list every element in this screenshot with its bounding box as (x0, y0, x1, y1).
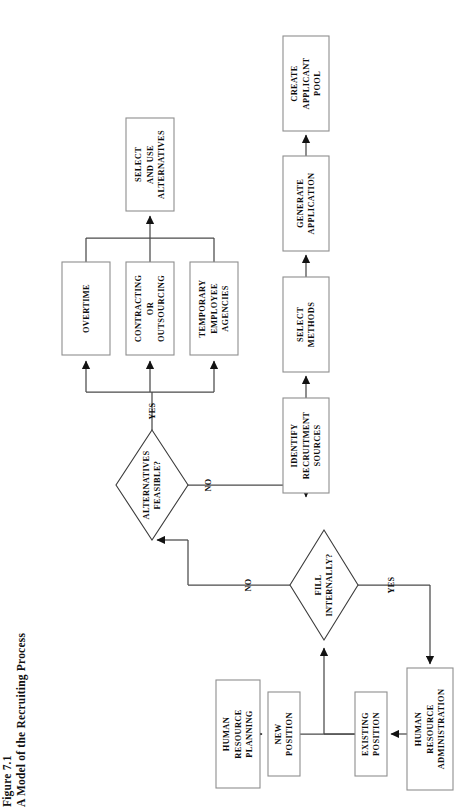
node-label-select-methods-line-1: SELECT (296, 307, 305, 342)
node-label-alternatives-feasible-line-2: FEASIBLE? (153, 461, 162, 510)
node-label-select-methods-line-2: METHODS (307, 302, 316, 347)
node-label-generate-application-line-1: GENERATE (296, 179, 305, 228)
node-human-resource-planning: HUMANRESOURCEPLANNING (216, 680, 260, 788)
label-yes-fill-internally: YES (387, 576, 396, 593)
node-overtime: OVERTIME (62, 262, 110, 355)
node-shape-existing-position (355, 692, 387, 776)
node-select-and-use-alternatives: SELECTAND USEALTERNATIVES (126, 118, 174, 211)
node-shape-generate-application (283, 156, 329, 251)
node-generate-application: GENERATEAPPLICATION (283, 156, 329, 251)
node-fill-internally: FILLINTERNALLY? (290, 530, 358, 640)
edge-labels-layer: YESNONOYES (148, 402, 396, 593)
node-existing-position: EXISTINGPOSITION (355, 692, 387, 776)
node-label-human-resource-administration-line-1: HUMAN (414, 712, 423, 746)
node-label-human-resource-planning-line-2: RESOURCE (234, 709, 243, 758)
node-label-fill-internally-line-2: INTERNALLY? (325, 553, 334, 616)
node-temporary-employee-agencies: TEMPORARYEMPLOYEEAGENCIES (190, 262, 238, 355)
node-label-generate-application-line-2: APPLICATION (307, 173, 316, 235)
node-label-existing-position-line-2: POSITION (372, 712, 381, 756)
node-label-new-position-line-2: POSITION (285, 712, 294, 756)
node-contracting-or-outsourcing: CONTRACTINGOROUTSOURCING (126, 262, 174, 355)
node-label-select-and-use-alternatives-line-1: SELECT (134, 147, 143, 182)
label-no-alternatives: NO (204, 479, 213, 492)
node-label-temporary-employee-agencies-line-2: EMPLOYEE (210, 283, 219, 334)
nodes-layer: HUMANRESOURCEPLANNINGNEWPOSITIONEXISTING… (62, 36, 453, 790)
node-select-methods: SELECTMETHODS (283, 277, 329, 372)
node-label-identify-recruitment-sources-line-3: SOURCES (313, 424, 322, 466)
node-label-select-and-use-alternatives-line-3: ALTERNATIVES (157, 130, 166, 199)
node-label-create-applicant-pool-line-3: POOL (313, 71, 322, 96)
node-shape-new-position (268, 692, 300, 776)
node-label-existing-position-line-1: EXISTING (361, 712, 370, 756)
node-shape-select-methods (283, 277, 329, 372)
node-label-new-position-line-1: NEW (274, 723, 283, 744)
node-label-identify-recruitment-sources-line-2: RECRUITMENT (302, 412, 311, 480)
node-create-applicant-pool: CREATEAPPLICANTPOOL (283, 36, 329, 131)
node-label-temporary-employee-agencies-line-1: TEMPORARY (198, 280, 207, 338)
node-label-temporary-employee-agencies-line-3: AGENCIES (221, 285, 230, 332)
label-no-fill-internally: NO (244, 579, 253, 592)
node-label-select-and-use-alternatives-line-2: AND USE (146, 145, 155, 184)
node-human-resource-administration: HUMANRESOURCEADMINISTRATION (407, 668, 453, 790)
node-label-identify-recruitment-sources-line-1: IDENTIFY (290, 424, 299, 468)
node-label-human-resource-planning-line-1: HUMAN (222, 717, 231, 751)
node-identify-recruitment-sources: IDENTIFYRECRUITMENTSOURCES (283, 398, 329, 493)
node-shape-alternatives-feasible (116, 430, 188, 540)
recruiting-process-flowchart: HUMANRESOURCEPLANNINGNEWPOSITIONEXISTING… (0, 0, 474, 807)
node-label-contracting-or-outsourcing-line-3: OUTSOURCING (157, 275, 166, 342)
node-label-human-resource-planning-line-3: PLANNING (245, 710, 254, 758)
node-label-contracting-or-outsourcing-line-2: OR (146, 301, 155, 315)
node-label-contracting-or-outsourcing-line-1: CONTRACTING (134, 275, 143, 343)
node-label-create-applicant-pool-line-2: APPLICANT (302, 57, 311, 109)
node-label-overtime-line-1: OVERTIME (82, 284, 91, 333)
node-shape-fill-internally (290, 530, 358, 640)
label-yes-alternatives: YES (148, 402, 157, 419)
figure-page: Figure 7.1 A Model of the Recruiting Pro… (0, 0, 474, 807)
node-new-position: NEWPOSITION (268, 692, 300, 776)
node-label-fill-internally-line-1: FILL (314, 574, 323, 595)
node-alternatives-feasible: ALTERNATIVESFEASIBLE? (116, 430, 188, 540)
node-label-human-resource-administration-line-2: RESOURCE (426, 704, 435, 753)
node-label-human-resource-administration-line-3: ADMINISTRATION (437, 689, 446, 770)
connector-layer (86, 135, 430, 734)
node-label-alternatives-feasible-line-1: ALTERNATIVES (142, 451, 151, 520)
node-label-create-applicant-pool-line-1: CREATE (290, 65, 299, 101)
